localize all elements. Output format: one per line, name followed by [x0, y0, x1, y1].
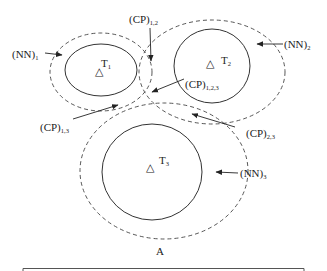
cp-label-2-3: (CP)2,3 — [246, 127, 275, 140]
nn-label-3: (NN)3 — [240, 167, 266, 180]
overlap-diagram: △ T1 △ T2 △ T3 (NN)1 (NN)2 (NN)3 (CP)1,2… — [0, 0, 327, 271]
nn-label-1: (NN)1 — [12, 48, 38, 61]
target-marker-2: △ — [206, 57, 215, 69]
neighborhood-circle-2 — [139, 20, 285, 124]
target-marker-3: △ — [146, 161, 155, 173]
figure-caption: A — [156, 245, 164, 257]
target-label-3: T3 — [159, 154, 169, 167]
nn-arrow-1 — [45, 53, 62, 55]
target-label-2: T2 — [221, 54, 231, 67]
cp-arrow-2-3 — [192, 114, 235, 127]
target-label-1: T1 — [101, 57, 111, 70]
nn-arrow-3 — [216, 172, 238, 173]
cp-arrow-1-2 — [150, 28, 151, 61]
cp-label-1-2: (CP)1,2 — [129, 13, 158, 26]
cp-label-1-2-3: (CP)1,2,3 — [185, 78, 219, 91]
nn-label-2: (NN)2 — [284, 38, 310, 51]
cp-label-1-3: (CP)1,3 — [40, 121, 69, 134]
